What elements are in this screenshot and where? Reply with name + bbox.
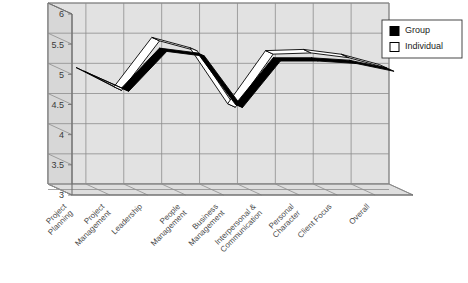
y-tick-label: 5.5 <box>51 40 64 50</box>
legend-swatch-hollow <box>390 43 399 52</box>
legend-label: Group <box>405 25 430 35</box>
y-tick-label: 3.5 <box>51 160 64 170</box>
chart-3d-line: 33.544.555.56 ProjectPlanningProjectMana… <box>0 0 468 283</box>
y-tick-label: 5 <box>59 70 64 80</box>
y-tick-label: 4.5 <box>51 100 64 110</box>
y-tick-label: 4 <box>59 130 64 140</box>
legend-swatch-filled <box>390 27 399 36</box>
y-tick-label: 3 <box>59 190 64 200</box>
y-tick-label: 6 <box>59 9 64 19</box>
legend-label: Individual <box>405 41 443 51</box>
legend-entry[interactable]: Group <box>390 25 430 35</box>
chart-legend[interactable]: GroupIndividual <box>382 20 462 58</box>
legend-entry[interactable]: Individual <box>390 41 443 51</box>
chart-canvas: 33.544.555.56 ProjectPlanningProjectMana… <box>0 0 468 283</box>
